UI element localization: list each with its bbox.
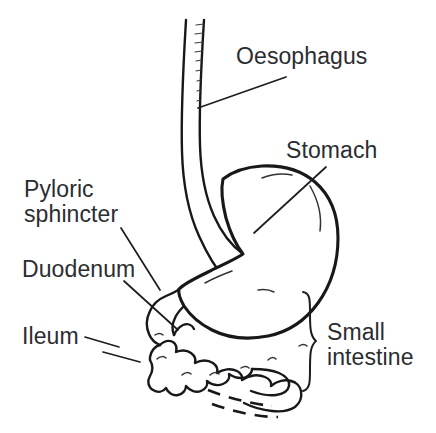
label-oesophagus: Oesophagus — [236, 44, 367, 69]
label-pyloric-sphincter: Pyloric sphincter — [24, 177, 118, 227]
ileum-shape — [148, 341, 301, 411]
label-small-intestine: Small intestine — [327, 320, 414, 370]
leader-ileum — [85, 337, 119, 347]
label-duodenum: Duodenum — [22, 257, 135, 282]
leader-oesophagus — [198, 77, 286, 108]
label-ileum: Ileum — [22, 324, 79, 349]
leader-ileum-segment-2 — [103, 352, 140, 362]
label-stomach: Stomach — [286, 138, 377, 163]
digestive-system-diagram: Oesophagus Stomach Pyloric sphincter Duo… — [0, 0, 436, 433]
stomach-shape — [179, 166, 338, 338]
leader-duodenum — [124, 281, 178, 330]
